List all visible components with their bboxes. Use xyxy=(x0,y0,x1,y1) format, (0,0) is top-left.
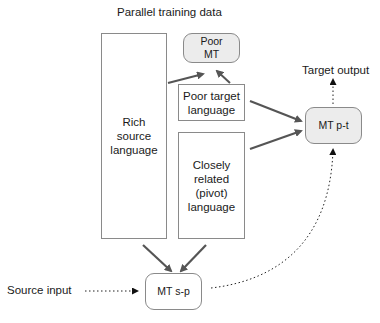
mt-sp-node: MT s-p xyxy=(145,273,202,310)
poor-mt-node: Poor MT xyxy=(183,33,240,63)
source-input-label: Source input xyxy=(7,284,72,296)
rich-source-language-box: Rich source language xyxy=(101,33,167,239)
pivot-language-box: Closely related (pivot) language xyxy=(178,132,245,239)
mt-pt-node: MT p-t xyxy=(305,107,362,144)
target-output-label: Target output xyxy=(302,64,369,76)
diagram-title: Parallel training data xyxy=(117,6,222,18)
poor-target-language-box: Poor target language xyxy=(178,84,245,121)
